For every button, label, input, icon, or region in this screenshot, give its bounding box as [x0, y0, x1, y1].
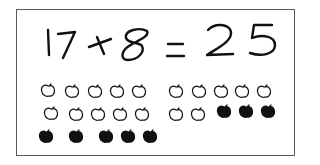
filled-apple-icon [38, 129, 54, 144]
equals-sign [167, 44, 184, 56]
digit-8 [122, 29, 147, 60]
outline-apple-icon [68, 107, 84, 122]
filled-apple-icon [260, 104, 276, 119]
filled-apple-icon [68, 129, 84, 144]
outline-apple-icon [234, 84, 250, 99]
outline-apple-icon [109, 84, 125, 99]
outline-apple-icon [190, 107, 206, 122]
filled-apple-icon [216, 104, 232, 119]
filled-apple-icon [98, 129, 114, 144]
outline-apple-icon [134, 107, 150, 122]
outline-apple-icon [256, 84, 272, 99]
outline-apple-icon [213, 84, 229, 99]
outline-apple-icon [40, 83, 56, 98]
filled-apple-icon [238, 104, 254, 119]
outline-apple-icon [87, 84, 103, 99]
filled-apple-icon [142, 129, 158, 144]
outline-apple-icon [112, 107, 128, 122]
outline-apple-icon [43, 106, 59, 121]
digit-7 [58, 32, 75, 58]
outline-apple-icon [64, 84, 80, 99]
outline-apple-icon [90, 107, 106, 122]
outline-apple-icon [131, 84, 147, 99]
outline-apple-icon [168, 107, 184, 122]
outline-apple-icon [168, 84, 184, 99]
digit-1 [48, 30, 49, 55]
digit-2 [207, 25, 233, 55]
filled-apple-icon [120, 129, 136, 144]
digit-5 [250, 25, 275, 55]
outline-apple-icon [191, 84, 207, 99]
plus-sign [89, 37, 111, 54]
